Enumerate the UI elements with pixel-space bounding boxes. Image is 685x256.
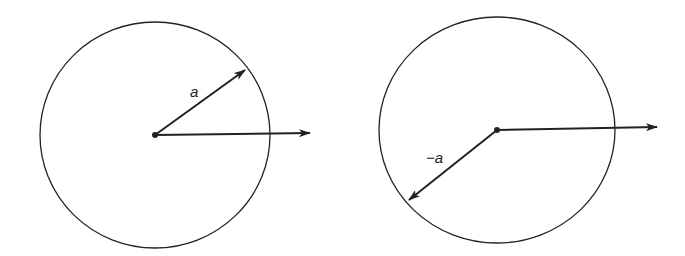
- diagram-vector-a: a: [40, 22, 310, 248]
- label-a: a: [190, 83, 198, 100]
- center-dot: [152, 132, 158, 138]
- diagram-canvas: a −a: [0, 0, 685, 256]
- reference-arrow: [155, 133, 310, 135]
- vector-minus-a-arrow: [409, 130, 497, 200]
- label-minus-a: −a: [426, 149, 443, 166]
- diagram-vector-minus-a: −a: [379, 17, 657, 243]
- reference-arrow: [497, 127, 657, 130]
- center-dot: [494, 127, 500, 133]
- vector-a-arrow: [155, 70, 245, 135]
